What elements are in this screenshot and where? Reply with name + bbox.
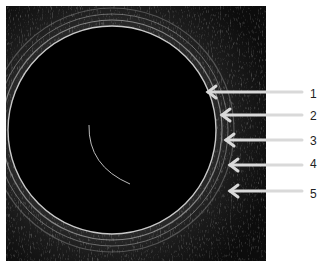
arrow-label-2: 2 xyxy=(310,110,317,122)
arrow-layer xyxy=(0,0,331,263)
arrow-label-3: 3 xyxy=(310,135,317,147)
arrow-label-5: 5 xyxy=(310,188,317,200)
arrow-label-1: 1 xyxy=(310,88,317,100)
arrow-label-4: 4 xyxy=(310,158,317,170)
